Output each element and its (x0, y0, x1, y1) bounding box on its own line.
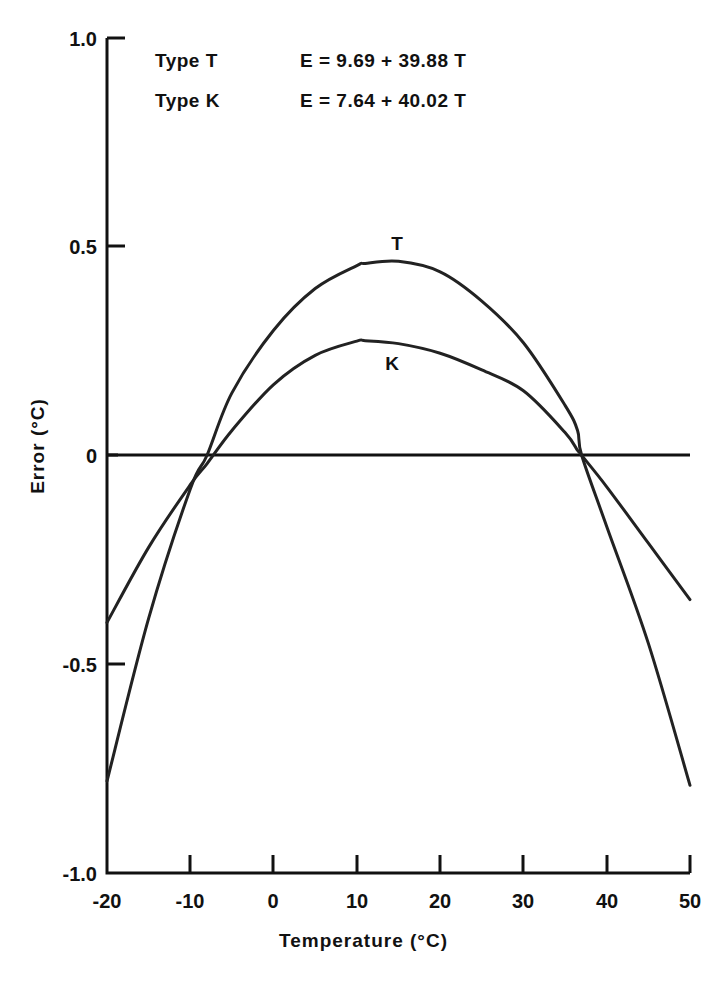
legend-type-k-label: Type K (155, 90, 220, 112)
x-axis-ticks (190, 855, 607, 873)
x-tick-label-neg-10: -10 (176, 890, 205, 912)
curve-label-t: T (391, 233, 403, 254)
y-tick-label-0-5: 0.5 (69, 236, 97, 258)
y-axis-title: Error (°C) (27, 346, 49, 546)
x-tick-label-neg-20: -20 (93, 890, 122, 912)
y-tick-label-1: 1.0 (69, 28, 97, 50)
y-tick-label-neg-0-5: -0.5 (63, 654, 97, 676)
chart-figure: Type T E = 9.69 + 39.88 T Type K E = 7.6… (0, 0, 727, 988)
curve-type-t (107, 261, 690, 785)
x-tick-label-50: 50 (679, 890, 701, 912)
y-tick-label-neg-1: -1.0 (63, 863, 97, 885)
x-axis-title: Temperature (°C) (0, 930, 727, 952)
legend-type-k-equation: E = 7.64 + 40.02 T (300, 90, 466, 112)
x-tick-label-40: 40 (596, 890, 618, 912)
legend-type-t-label: Type T (155, 50, 218, 72)
x-tick-label-20: 20 (429, 890, 451, 912)
x-tick-label-30: 30 (512, 890, 534, 912)
x-tick-label-10: 10 (346, 890, 368, 912)
legend-type-t-equation: E = 9.69 + 39.88 T (300, 50, 466, 72)
y-tick-label-0: 0 (86, 445, 97, 467)
curve-label-k: K (385, 353, 399, 374)
plot-canvas: 1.0 0.5 0 -0.5 -1.0 -20 -10 0 10 20 30 4… (0, 0, 727, 988)
x-tick-label-0: 0 (267, 890, 278, 912)
